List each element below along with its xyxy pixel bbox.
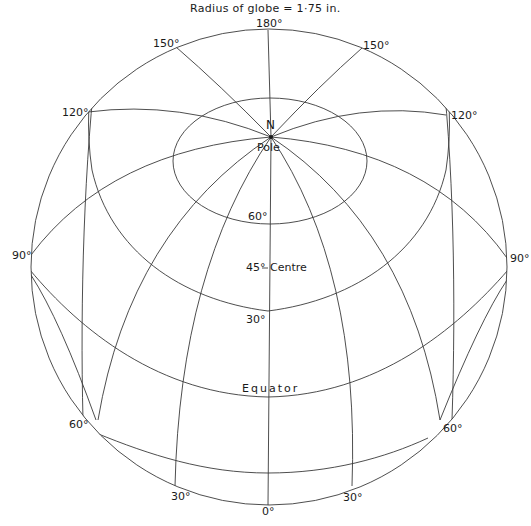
parallel-south	[96, 433, 428, 473]
label-150-left: 150°	[153, 38, 180, 49]
meridian-120-right	[271, 111, 446, 137]
meridian-150-left	[176, 47, 271, 137]
meridian-90-left	[31, 137, 271, 255]
label-centre-lat: 45°	[246, 262, 266, 273]
label-lat-30: 30°	[246, 314, 266, 325]
meridian-30-left	[175, 137, 271, 486]
globe-radius-title: Radius of globe = 1·75 in.	[190, 3, 341, 14]
label-centre: Centre	[270, 262, 307, 273]
meridian-90-right	[271, 137, 507, 258]
label-90-left: 90°	[12, 250, 32, 261]
meridian-lower-right	[440, 280, 507, 420]
label-60-left: 60°	[69, 419, 89, 430]
label-north: N	[266, 119, 275, 131]
label-180: 180°	[256, 18, 283, 29]
label-120-left: 120°	[62, 107, 89, 118]
label-60-right: 60°	[443, 423, 463, 434]
label-pole: Pole	[257, 142, 280, 153]
pole-dot	[269, 135, 273, 139]
meridian-120-left	[88, 109, 271, 137]
globe-net	[0, 0, 531, 526]
label-equator: Equator	[242, 383, 299, 394]
label-150-right: 150°	[363, 40, 390, 51]
parallel-30	[89, 50, 450, 311]
label-120-right: 120°	[451, 110, 478, 121]
meridian-30-right	[271, 137, 353, 486]
label-90-right: 90°	[510, 253, 530, 264]
label-30-right: 30°	[343, 492, 363, 503]
label-0: 0°	[262, 506, 275, 517]
label-lat-60: 60°	[248, 211, 268, 222]
meridian-lower-left	[31, 275, 96, 420]
label-30-left: 30°	[171, 491, 191, 502]
